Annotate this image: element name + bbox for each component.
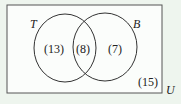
intersection-value: (8) [76,42,90,56]
venn-diagram: T B (13) (8) (7) (15) U [0,0,181,104]
b-only-value: (7) [108,42,122,56]
set-b-label: B [133,17,141,31]
t-only-value: (13) [44,42,64,56]
universe-label: U [166,83,176,97]
outside-value: (15) [138,75,158,89]
